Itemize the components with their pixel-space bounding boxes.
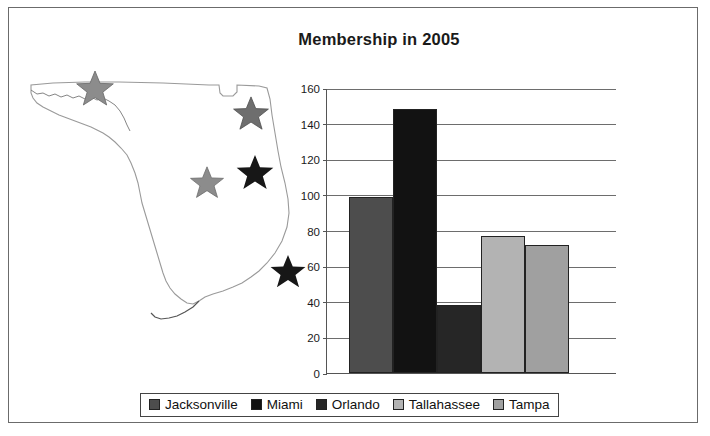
map-marker-orlando (235, 153, 275, 193)
legend-swatch-icon (493, 399, 504, 410)
legend-swatch-icon (251, 399, 262, 410)
bar-tallahassee (481, 236, 525, 373)
legend-swatch-icon (316, 399, 327, 410)
legend-label: Tallahassee (409, 397, 480, 412)
y-axis-tick-label: 140 (301, 119, 320, 131)
bar-chart-plot: 020406080100120140160 (326, 89, 616, 374)
bar-jacksonville (349, 197, 393, 373)
bar-series (327, 89, 616, 373)
legend-item-tampa[interactable]: Tampa (493, 397, 550, 412)
y-axis-tick-label: 40 (307, 297, 320, 309)
y-axis-tick-label: 0 (314, 368, 320, 380)
legend-label: Jacksonville (165, 397, 238, 412)
legend-swatch-icon (149, 399, 160, 410)
map-marker-tampa (189, 165, 225, 201)
legend-item-miami[interactable]: Miami (251, 397, 303, 412)
y-axis-tick-label: 120 (301, 154, 320, 166)
legend-label: Miami (267, 397, 303, 412)
legend-item-orlando[interactable]: Orlando (316, 397, 380, 412)
y-axis-tick-label: 160 (301, 83, 320, 95)
chart-legend: JacksonvilleMiamiOrlandoTallahasseeTampa (140, 393, 559, 417)
bar-tampa (525, 245, 569, 373)
legend-label: Orlando (332, 397, 380, 412)
chart-title: Membership in 2005 (239, 30, 519, 49)
florida-map (23, 63, 308, 363)
y-axis-tick-label: 100 (301, 190, 320, 202)
legend-label: Tampa (509, 397, 550, 412)
bar-miami (393, 109, 437, 373)
map-marker-miami (269, 253, 307, 291)
legend-item-tallahassee[interactable]: Tallahassee (393, 397, 480, 412)
y-axis-tick-label: 20 (307, 332, 320, 344)
bar-orlando (437, 305, 481, 373)
y-axis-tick-label: 80 (307, 226, 320, 238)
map-marker-tallahassee (75, 69, 115, 109)
y-axis-tick (323, 374, 327, 375)
y-axis-tick-label: 60 (307, 261, 320, 273)
map-marker-jacksonville (232, 95, 270, 133)
slide-frame: Membership in 2005 020406080100120140160… (8, 7, 698, 423)
legend-item-jacksonville[interactable]: Jacksonville (149, 397, 238, 412)
legend-swatch-icon (393, 399, 404, 410)
